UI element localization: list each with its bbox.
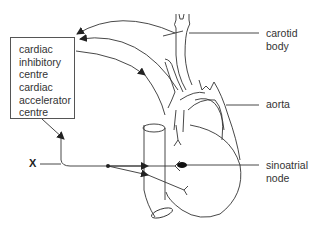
nerve-centre-to-heart — [76, 51, 145, 75]
text-line: inhibitory — [19, 56, 61, 69]
nerve-carotid-to-centre — [77, 21, 175, 34]
text-line: centre — [19, 106, 71, 119]
nerve-aorta-to-centre — [80, 38, 178, 90]
sinoatrial-node-label: sinoatrial node — [266, 159, 308, 184]
text-line: node — [266, 172, 308, 185]
cardiac-inhibitory-centre-label: cardiac inhibitory centre — [19, 43, 61, 81]
cardiac-centres-box: cardiac inhibitory centre cardiac accele… — [10, 37, 75, 119]
text-line: carotid — [266, 27, 298, 40]
text-line: centre — [19, 68, 61, 81]
text-line: body — [266, 40, 298, 53]
aorta-label: aorta — [266, 98, 290, 111]
text-line: cardiac — [19, 81, 71, 94]
carotid-body-label: carotid body — [266, 27, 298, 52]
text-line: cardiac — [19, 43, 61, 56]
aorta-arch — [199, 80, 240, 160]
sa-node — [177, 162, 187, 168]
cardiac-accelerator-centre-label: cardiac accelerator centre — [19, 81, 71, 119]
text-line: accelerator — [19, 94, 71, 107]
vena-cava — [144, 125, 155, 217]
x-label: X — [29, 157, 36, 169]
carotid-artery — [175, 14, 187, 90]
text-line: sinoatrial — [266, 159, 308, 172]
heart-outline — [166, 125, 241, 217]
